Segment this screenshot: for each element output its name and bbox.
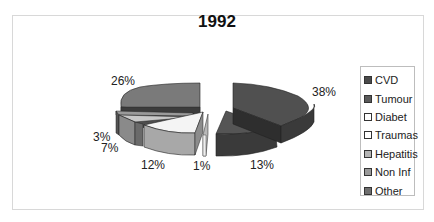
legend-swatch-icon [364,76,372,84]
legend-item-tumour: Tumour [364,89,414,107]
legend-swatch-icon [364,150,372,158]
legend-swatch-icon [364,131,372,139]
legend-item-traumas: Traumas [364,126,414,144]
legend-item-other: Other [364,181,414,199]
label-other: 26% [111,74,135,88]
legend-item-cvd: CVD [364,71,414,89]
legend-swatch-icon [364,95,372,103]
label-diabet: 1% [193,159,211,173]
slice-diabet [203,114,208,156]
legend-swatch-icon [364,113,372,121]
label-tumour: 13% [250,158,274,172]
legend-swatch-icon [364,187,372,195]
legend-item-diabet: Diabet [364,108,414,126]
label-traumas: 12% [141,158,165,172]
label-non-inf: 3% [93,130,111,144]
legend-item-hepatitis: Hepatitis [364,145,414,163]
legend-item-non-inf: Non Inf [364,163,414,181]
legend: CVD Tumour Diabet Traumas Hepatitis Non … [360,66,415,196]
label-cvd: 38% [312,85,336,99]
legend-swatch-icon [364,168,372,176]
